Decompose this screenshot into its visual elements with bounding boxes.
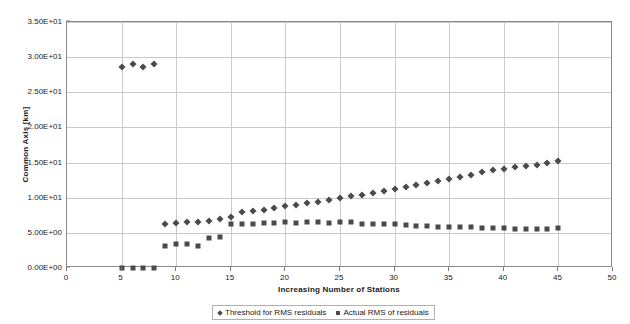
x-axis-tick-mark: [230, 267, 231, 271]
x-axis-tick-label: 0: [64, 273, 68, 282]
data-point-square: [206, 235, 211, 240]
data-point-square: [196, 243, 201, 248]
data-point-diamond: [205, 217, 212, 224]
data-point-square: [250, 222, 255, 227]
gridline-horizontal: [67, 233, 611, 234]
data-point-square: [447, 224, 452, 229]
x-axis-tick-mark: [175, 267, 176, 271]
gridline-horizontal: [67, 127, 611, 128]
gridline-vertical: [395, 22, 396, 266]
legend-entry[interactable]: Threshold for RMS residuals: [218, 308, 326, 317]
x-axis-tick-label: 25: [335, 273, 344, 282]
data-point-square: [403, 223, 408, 228]
data-point-square: [469, 225, 474, 230]
plot-area: [66, 21, 612, 267]
x-axis-tick-mark: [121, 267, 122, 271]
data-point-diamond: [271, 205, 278, 212]
data-point-diamond: [282, 203, 289, 210]
legend-label: Actual RMS of residuals: [343, 308, 428, 317]
x-axis-tick-mark: [503, 267, 504, 271]
data-point-diamond: [118, 63, 125, 70]
data-point-square: [414, 223, 419, 228]
chart-container: Common Axis [km] 0.00E+005.00E+001.00E+0…: [0, 0, 630, 324]
data-point-square: [425, 223, 430, 228]
gridline-horizontal: [67, 22, 611, 23]
legend-entry[interactable]: Actual RMS of residuals: [336, 308, 428, 317]
data-point-diamond: [184, 219, 191, 226]
data-point-square: [479, 225, 484, 230]
data-point-square: [556, 225, 561, 230]
gridline-horizontal: [67, 57, 611, 58]
data-point-square: [217, 235, 222, 240]
data-point-square: [512, 226, 517, 231]
data-point-diamond: [446, 175, 453, 182]
data-point-diamond: [227, 214, 234, 221]
x-axis-tick-group: 05101520253035404550: [66, 267, 612, 287]
data-point-square: [458, 225, 463, 230]
data-point-square: [163, 243, 168, 248]
data-point-diamond: [413, 182, 420, 189]
data-point-diamond: [391, 186, 398, 193]
data-point-square: [534, 226, 539, 231]
x-axis-tick-label: 50: [608, 273, 617, 282]
x-axis-tick-label: 35: [444, 273, 453, 282]
data-point-diamond: [336, 194, 343, 201]
legend-square-icon: [336, 311, 340, 315]
data-point-diamond: [544, 160, 551, 167]
x-axis-tick-label: 15: [225, 273, 234, 282]
data-point-diamond: [369, 190, 376, 197]
data-point-diamond: [380, 188, 387, 195]
x-axis-tick-label: 30: [389, 273, 398, 282]
data-point-diamond: [249, 208, 256, 215]
data-point-diamond: [129, 61, 136, 68]
data-point-square: [327, 221, 332, 226]
x-axis-tick-mark: [557, 267, 558, 271]
data-point-square: [501, 225, 506, 230]
x-axis-tick-mark: [66, 267, 67, 271]
data-point-square: [545, 226, 550, 231]
data-point-diamond: [140, 63, 147, 70]
data-point-diamond: [260, 206, 267, 213]
data-point-diamond: [216, 215, 223, 222]
data-point-square: [338, 219, 343, 224]
y-axis-tick-label: 1.00E+01: [8, 192, 62, 201]
y-axis-tick-group: 0.00E+005.00E+001.00E+011.50E+012.00E+01…: [8, 0, 62, 324]
x-axis-tick-label: 20: [280, 273, 289, 282]
data-point-diamond: [435, 177, 442, 184]
gridline-vertical: [122, 22, 123, 266]
data-point-diamond: [478, 169, 485, 176]
y-axis-tick-label: 2.50E+01: [8, 87, 62, 96]
data-point-diamond: [304, 200, 311, 207]
legend-diamond-icon: [217, 310, 223, 316]
data-point-square: [348, 220, 353, 225]
data-point-square: [359, 221, 364, 226]
data-point-diamond: [402, 184, 409, 191]
data-point-square: [174, 242, 179, 247]
data-point-square: [381, 222, 386, 227]
y-axis-tick-label: 0.00E+00: [8, 263, 62, 272]
x-axis-tick-mark: [339, 267, 340, 271]
chart-legend: Threshold for RMS residualsActual RMS of…: [212, 305, 435, 320]
gridline-horizontal: [67, 163, 611, 164]
data-point-diamond: [315, 198, 322, 205]
gridline-horizontal: [67, 92, 611, 93]
data-point-square: [523, 226, 528, 231]
data-point-square: [261, 221, 266, 226]
data-point-diamond: [467, 171, 474, 178]
data-point-diamond: [500, 165, 507, 172]
data-point-diamond: [457, 173, 464, 180]
y-axis-tick-label: 5.00E+00: [8, 227, 62, 236]
data-point-square: [283, 220, 288, 225]
data-point-square: [228, 221, 233, 226]
y-axis-tick-label: 2.00E+01: [8, 122, 62, 131]
gridline-vertical: [231, 22, 232, 266]
data-point-square: [436, 224, 441, 229]
x-axis-tick-mark: [394, 267, 395, 271]
data-point-diamond: [424, 179, 431, 186]
x-axis-tick-label: 45: [553, 273, 562, 282]
y-axis-tick-label: 1.50E+01: [8, 157, 62, 166]
x-axis-tick-mark: [448, 267, 449, 271]
data-point-square: [392, 222, 397, 227]
data-point-square: [185, 242, 190, 247]
data-point-diamond: [489, 167, 496, 174]
